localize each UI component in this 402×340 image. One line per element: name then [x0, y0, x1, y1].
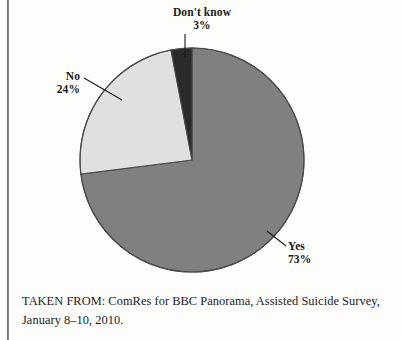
pie-label-no: No 24%	[24, 70, 80, 96]
pie-label-yes: Yes 73%	[288, 240, 358, 266]
pie-label-yes-name: Yes	[288, 240, 358, 253]
pie-label-no-value: 24%	[24, 83, 80, 96]
pie-label-yes-value: 73%	[288, 253, 358, 266]
figure-page: Don't know 3% No 24% Yes 73% TAKEN FROM:…	[0, 0, 402, 340]
pie-label-dont-know-name: Don't know	[146, 6, 258, 19]
figure-caption: TAKEN FROM: ComRes for BBC Panorama, Ass…	[22, 292, 388, 329]
pie-label-dont-know: Don't know 3%	[146, 6, 258, 32]
pie-label-no-name: No	[24, 70, 80, 83]
pie-label-dont-know-value: 3%	[146, 19, 258, 32]
pie-chart: Don't know 3% No 24% Yes 73%	[0, 0, 402, 284]
